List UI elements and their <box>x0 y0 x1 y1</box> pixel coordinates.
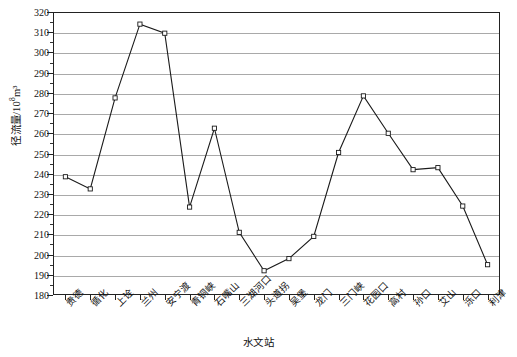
y-tick-label: 260 <box>9 128 49 139</box>
y-tick-mark <box>47 133 53 134</box>
y-tick-mark <box>47 12 53 13</box>
gridline <box>54 235 499 236</box>
y-tick-mark <box>47 255 53 256</box>
gridline <box>54 134 499 135</box>
y-tick-label: 300 <box>9 47 49 58</box>
y-tick-mark <box>47 154 53 155</box>
plot-area <box>53 12 500 295</box>
y-tick-label: 290 <box>9 67 49 78</box>
x-axis-title: 水文站 <box>0 334 517 349</box>
y-tick-minor-mark <box>50 123 54 124</box>
y-tick-minor-mark <box>50 22 54 23</box>
gridline <box>54 175 499 176</box>
y-tick-mark <box>47 113 53 114</box>
y-tick-mark <box>47 174 53 175</box>
y-tick-minor-mark <box>50 42 54 43</box>
gridline <box>54 215 499 216</box>
y-tick-label: 240 <box>9 168 49 179</box>
y-tick-label: 180 <box>9 290 49 301</box>
y-tick-label: 310 <box>9 27 49 38</box>
gridline <box>54 256 499 257</box>
y-tick-label: 280 <box>9 87 49 98</box>
y-tick-mark <box>47 93 53 94</box>
y-tick-minor-mark <box>50 164 54 165</box>
gridline <box>54 276 499 277</box>
y-tick-minor-mark <box>50 184 54 185</box>
y-tick-mark <box>47 194 53 195</box>
y-tick-mark <box>47 73 53 74</box>
y-tick-minor-mark <box>50 265 54 266</box>
y-tick-minor-mark <box>50 83 54 84</box>
y-tick-label: 320 <box>9 7 49 18</box>
gridline <box>54 114 499 115</box>
y-tick-mark <box>47 295 53 296</box>
y-tick-label: 210 <box>9 229 49 240</box>
gridline <box>54 195 499 196</box>
y-tick-mark <box>47 234 53 235</box>
gridline <box>54 53 499 54</box>
y-tick-label: 190 <box>9 269 49 280</box>
y-tick-minor-mark <box>50 63 54 64</box>
gridline <box>54 74 499 75</box>
y-tick-minor-mark <box>50 103 54 104</box>
y-tick-label: 200 <box>9 249 49 260</box>
y-tick-minor-mark <box>50 143 54 144</box>
gridline <box>54 155 499 156</box>
y-tick-minor-mark <box>50 244 54 245</box>
y-tick-mark <box>47 214 53 215</box>
y-tick-label: 220 <box>9 209 49 220</box>
y-tick-label: 270 <box>9 108 49 119</box>
y-tick-mark <box>47 275 53 276</box>
y-tick-label: 250 <box>9 148 49 159</box>
y-tick-minor-mark <box>50 285 54 286</box>
gridline <box>54 94 499 95</box>
runoff-line-chart: 径流量/108m³ 180190200210220230240250260270… <box>0 0 517 357</box>
y-tick-minor-mark <box>50 204 54 205</box>
y-tick-mark <box>47 52 53 53</box>
gridline <box>54 33 499 34</box>
y-tick-mark <box>47 32 53 33</box>
y-tick-minor-mark <box>50 224 54 225</box>
y-tick-label: 230 <box>9 188 49 199</box>
